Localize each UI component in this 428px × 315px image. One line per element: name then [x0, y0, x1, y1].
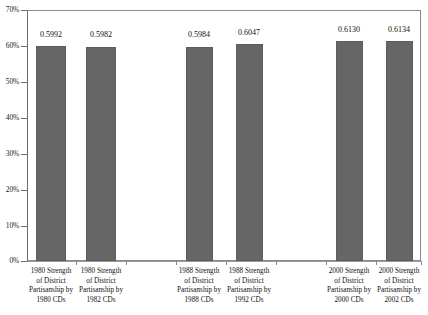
category-label-line: 1980 Strength	[73, 267, 129, 277]
x-axis-tick	[421, 261, 422, 265]
category-label-line: of District	[221, 277, 277, 287]
y-axis-tick	[21, 118, 27, 119]
bar	[186, 47, 213, 262]
category-label-line: Partisanship by	[221, 286, 277, 296]
category-label-line: of District	[73, 277, 129, 287]
y-axis-label: 70%	[0, 6, 19, 14]
x-axis-tick	[276, 261, 277, 265]
category-label-line: Partisanship by	[371, 286, 427, 296]
bar-value-label: 0.5984	[174, 30, 224, 39]
category-label-line: 1992 CDs	[221, 296, 277, 306]
y-axis-tick	[21, 46, 27, 47]
category-label-line: 1988 CDs	[171, 296, 227, 306]
category-label-line: 1980 Strength	[23, 267, 79, 277]
y-axis-tick	[21, 10, 27, 11]
bar-value-label: 0.6134	[374, 25, 424, 34]
x-axis-category-label: 1988 Strength of District Partisanship b…	[171, 267, 227, 305]
y-axis-label: 30%	[0, 150, 19, 158]
y-axis-label: 50%	[0, 78, 19, 86]
category-label-line: Partisanship by	[73, 286, 129, 296]
y-axis-label: 40%	[0, 114, 19, 122]
category-label-line: 2000 Strength	[321, 267, 377, 277]
category-label-line: 2000 Strength	[371, 267, 427, 277]
y-axis-tick	[21, 82, 27, 83]
x-axis-category-label: 1980 Strength of District Partisanship b…	[73, 267, 129, 305]
x-axis-category-label: 2000 Strength of District Partisanship b…	[321, 267, 377, 305]
bar-value-label: 0.6130	[324, 25, 374, 34]
bar-value-label: 0.6047	[224, 28, 274, 37]
y-axis-tick	[21, 190, 27, 191]
x-axis-category-label: 2000 Strength of District Partisanship b…	[371, 267, 427, 305]
y-axis-tick	[21, 261, 27, 262]
category-label-line: 1982 CDs	[73, 296, 129, 306]
x-axis-category-label: 1980 Strength of District Partisanship b…	[23, 267, 79, 305]
category-label-line: 1988 Strength	[221, 267, 277, 277]
y-axis-label: 10%	[0, 222, 19, 230]
y-axis-label: 0%	[0, 257, 19, 265]
x-axis-tick	[176, 261, 177, 265]
x-axis-line	[27, 261, 422, 262]
x-axis-tick	[376, 261, 377, 265]
category-label-line: 2002 CDs	[371, 296, 427, 306]
category-label-line: 2000 CDs	[321, 296, 377, 306]
bar	[336, 41, 363, 261]
category-label-line: of District	[171, 277, 227, 287]
y-axis-line	[27, 10, 28, 262]
x-axis-tick	[326, 261, 327, 265]
category-label-line: 1988 Strength	[171, 267, 227, 277]
x-axis-category-label: 1988 Strength of District Partisanship b…	[221, 267, 277, 305]
bar-value-label: 0.5992	[26, 30, 76, 39]
category-label-line: of District	[23, 277, 79, 287]
category-label-line: of District	[321, 277, 377, 287]
x-axis-tick	[226, 261, 227, 265]
bar	[86, 47, 116, 261]
y-axis-tick	[21, 226, 27, 227]
bar	[386, 41, 413, 261]
bar-chart: 70% 60% 50% 40% 30% 20% 10% 0% 0.5992 0.…	[0, 0, 428, 315]
category-label-line: of District	[371, 277, 427, 287]
category-label-line: Partisanship by	[321, 286, 377, 296]
bar-value-label: 0.5982	[76, 30, 126, 39]
bar	[36, 46, 66, 261]
y-axis-label: 20%	[0, 186, 19, 194]
y-axis-tick	[21, 154, 27, 155]
bar	[236, 44, 263, 261]
x-axis-tick	[76, 261, 77, 265]
y-axis-label: 60%	[0, 42, 19, 50]
category-label-line: Partisanship by	[23, 286, 79, 296]
category-label-line: Partisanship by	[171, 286, 227, 296]
category-label-line: 1980 CDs	[23, 296, 79, 306]
x-axis-tick	[126, 261, 127, 265]
